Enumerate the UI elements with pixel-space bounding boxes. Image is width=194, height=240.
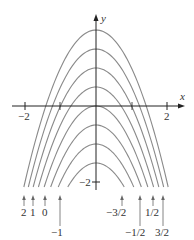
x-axis-label: x xyxy=(179,90,185,102)
pointer-arrow-icon xyxy=(120,195,124,200)
y-tick-label-neg2: −2 xyxy=(79,176,91,188)
curve-label-3-2: 3/2 xyxy=(155,226,169,238)
curve-label-2: 2 xyxy=(21,206,27,218)
curve-label-1: 1 xyxy=(30,206,36,218)
y-axis-arrow-icon xyxy=(94,14,99,21)
pointer-arrow-icon xyxy=(58,195,62,200)
y-axis-label: y xyxy=(100,12,106,24)
pointer-arrow-icon xyxy=(138,195,142,200)
curve-label-1-2: 1/2 xyxy=(145,206,159,218)
pointer-arrow-icon xyxy=(151,195,155,200)
pointer-arrow-icon xyxy=(43,195,47,200)
curve-label-neg3-2: −3/2 xyxy=(106,206,126,218)
pointer-arrow-icon xyxy=(22,195,26,200)
x-axis-arrow-icon xyxy=(178,104,185,109)
curve-label-0: 0 xyxy=(42,206,48,218)
x-tick-label-2: 2 xyxy=(164,110,170,122)
curve-label-neg1-2: −1/2 xyxy=(125,226,145,238)
x-tick-label-neg2: −2 xyxy=(18,110,30,122)
pointer-arrow-icon xyxy=(31,195,35,200)
pointer-arrow-icon xyxy=(161,195,165,200)
parabola-family-diagram: x y −2 2 −2 2 1 0 −1 −3/2 −1/2 1/2 3/2 xyxy=(0,0,194,240)
curve-label-neg1: −1 xyxy=(51,226,63,238)
